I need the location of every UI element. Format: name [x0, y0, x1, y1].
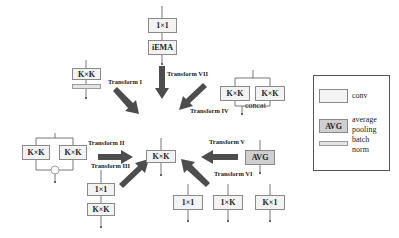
t1-conv-kxk: K×K — [72, 68, 101, 80]
t2-conv-right: K×K — [59, 145, 87, 160]
t1-batch-norm — [72, 84, 101, 89]
t3-conv-1x1: 1×1 — [87, 183, 115, 196]
t4-concat-label: concat — [245, 101, 266, 110]
t3-conv-kxk: K×K — [87, 203, 115, 216]
center-conv-kxk: K×K — [146, 150, 176, 163]
legend: conv AVG average pooling batch norm — [313, 75, 390, 171]
transform-i-label: Transform I — [108, 78, 142, 85]
legend-bn-swatch — [319, 141, 348, 146]
transform-vii-label: Transform VII — [167, 70, 208, 77]
t6-conv-kx1: K×1 — [255, 195, 285, 210]
legend-avg-swatch: AVG — [319, 119, 348, 133]
t4-conv-left: K×K — [220, 86, 250, 101]
t7-conv-1x1: 1×1 — [148, 18, 177, 33]
t4-conv-right: K×K — [255, 86, 285, 101]
transform-ii-label: Transform II — [88, 139, 125, 146]
t5-avg-pool: AVG — [245, 150, 275, 165]
legend-bn-label-2: norm — [352, 145, 369, 154]
legend-conv-label: conv — [352, 91, 368, 100]
transform-iv-label: Transform IV — [190, 107, 229, 114]
legend-conv-swatch — [319, 89, 348, 103]
transform-iii-label: Transform III — [91, 162, 130, 169]
t6-conv-1xk: 1×K — [213, 195, 243, 210]
legend-avg-label-1: average — [352, 115, 377, 124]
t2-conv-left: K×K — [22, 145, 50, 160]
t7-iema-block: iEMA — [148, 40, 177, 55]
transform-vi-label: Transform VI — [214, 170, 253, 177]
t6-conv-1x1: 1×1 — [173, 195, 203, 210]
legend-avg-label-2: pooling — [352, 125, 376, 134]
add-node-icon — [51, 166, 59, 174]
transform-v-label: Transform V — [209, 138, 245, 145]
legend-bn-label-1: batch — [352, 135, 369, 144]
